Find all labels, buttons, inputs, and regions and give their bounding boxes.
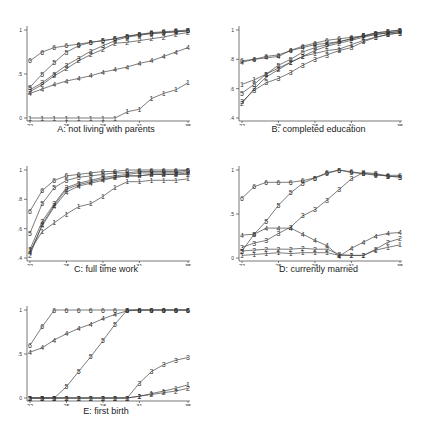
data-marker: 6 bbox=[65, 307, 69, 314]
data-marker: 6 bbox=[65, 172, 69, 179]
data-marker: 4 bbox=[264, 225, 268, 232]
data-marker: 5 bbox=[65, 383, 69, 390]
data-marker: 2 bbox=[301, 245, 305, 252]
data-marker: 2 bbox=[386, 239, 390, 246]
data-marker: 6 bbox=[89, 170, 93, 177]
data-marker: 6 bbox=[362, 32, 366, 39]
data-marker: 2 bbox=[362, 252, 366, 259]
data-marker: 6 bbox=[101, 307, 105, 314]
data-marker: 5 bbox=[77, 368, 81, 375]
data-marker: 2 bbox=[186, 385, 190, 392]
data-marker: 5 bbox=[28, 84, 32, 91]
data-marker: 2 bbox=[349, 252, 353, 259]
data-marker: 6 bbox=[349, 168, 353, 175]
data-marker: 3 bbox=[113, 395, 117, 402]
data-marker: 2 bbox=[374, 246, 378, 253]
data-marker: 1 bbox=[186, 79, 190, 86]
data-marker: 3 bbox=[174, 357, 178, 364]
data-marker: 6 bbox=[89, 307, 93, 314]
data-marker: 3 bbox=[301, 212, 305, 219]
data-marker: 1 bbox=[52, 219, 56, 226]
data-marker: 4 bbox=[77, 325, 81, 332]
data-marker: 1 bbox=[101, 115, 105, 122]
data-marker: 4 bbox=[337, 253, 341, 260]
data-marker: 1 bbox=[65, 115, 69, 122]
data-marker: 6 bbox=[386, 28, 390, 35]
data-marker: 2 bbox=[289, 246, 293, 253]
data-marker: 6 bbox=[264, 53, 268, 60]
data-marker: 5 bbox=[252, 231, 256, 238]
data-marker: 3 bbox=[277, 75, 281, 82]
series-3: 33333333333333 bbox=[240, 30, 402, 106]
data-marker: 5 bbox=[240, 248, 244, 255]
data-marker: 6 bbox=[101, 168, 105, 175]
data-marker: 6 bbox=[301, 43, 305, 50]
data-marker: 3 bbox=[162, 361, 166, 368]
data-marker: 6 bbox=[277, 179, 281, 186]
data-marker: 3 bbox=[150, 368, 154, 375]
data-marker: 6 bbox=[89, 39, 93, 46]
data-marker: 6 bbox=[162, 28, 166, 35]
data-marker: 1 bbox=[150, 95, 154, 102]
data-marker: 4 bbox=[101, 69, 105, 76]
data-marker: 6 bbox=[289, 47, 293, 54]
data-marker: 5 bbox=[264, 71, 268, 78]
series-4: 44444444444444 bbox=[240, 28, 402, 66]
data-marker: 3 bbox=[186, 354, 190, 361]
data-marker: 6 bbox=[52, 307, 56, 314]
data-marker: 6 bbox=[362, 170, 366, 177]
data-marker: 4 bbox=[162, 53, 166, 60]
data-marker: 6 bbox=[186, 167, 190, 174]
data-marker: 5 bbox=[40, 200, 44, 207]
data-marker: 5 bbox=[89, 353, 93, 360]
data-marker: 6 bbox=[65, 42, 69, 49]
data-marker: 3 bbox=[240, 98, 244, 105]
data-marker: 3 bbox=[77, 55, 81, 62]
y-tick-label: 0 bbox=[231, 255, 234, 261]
data-marker: 3 bbox=[349, 44, 353, 51]
data-marker: 4 bbox=[89, 72, 93, 79]
y-tick-label: .8 bbox=[230, 56, 234, 62]
data-marker: 4 bbox=[28, 349, 32, 356]
data-marker: 5 bbox=[52, 184, 56, 191]
data-marker: 4 bbox=[28, 90, 32, 97]
data-marker: 6 bbox=[137, 307, 141, 314]
data-marker: 6 bbox=[252, 56, 256, 63]
data-marker: 4 bbox=[52, 203, 56, 210]
data-marker: 4 bbox=[77, 183, 81, 190]
y-tick-label: .6 bbox=[18, 226, 22, 232]
data-marker: 6 bbox=[77, 171, 81, 178]
y-tick-label: .4 bbox=[18, 255, 22, 261]
data-marker: 6 bbox=[240, 57, 244, 64]
data-marker: 5 bbox=[101, 337, 105, 344]
data-marker: 4 bbox=[65, 189, 69, 196]
data-marker: 6 bbox=[325, 169, 329, 176]
data-marker: 3 bbox=[313, 56, 317, 63]
data-marker: 4 bbox=[40, 222, 44, 229]
data-marker: 6 bbox=[337, 35, 341, 42]
data-marker: 4 bbox=[28, 249, 32, 256]
panel-b-completed-education: .4.6.812225283135age11111111111111222222… bbox=[212, 20, 425, 140]
data-marker: 1 bbox=[52, 115, 56, 122]
data-marker: 6 bbox=[40, 323, 44, 330]
data-marker: 1 bbox=[89, 200, 93, 207]
data-marker: 4 bbox=[240, 232, 244, 239]
data-marker: 4 bbox=[65, 330, 69, 337]
data-marker: 4 bbox=[349, 245, 353, 252]
y-tick-label: .5 bbox=[18, 351, 22, 357]
data-marker: 1 bbox=[137, 106, 141, 113]
data-marker: 4 bbox=[150, 57, 154, 64]
data-marker: 1 bbox=[77, 115, 81, 122]
data-marker: 6 bbox=[125, 307, 129, 314]
data-marker: 2 bbox=[150, 391, 154, 398]
y-tick-label: .4 bbox=[230, 115, 234, 121]
data-marker: 1 bbox=[240, 81, 244, 88]
y-tick-label: .5 bbox=[18, 71, 22, 77]
data-marker: 3 bbox=[264, 79, 268, 86]
data-marker: 4 bbox=[52, 81, 56, 88]
y-tick-label: 1 bbox=[19, 307, 22, 313]
data-marker: 5 bbox=[40, 395, 44, 402]
data-marker: 5 bbox=[52, 395, 56, 402]
data-marker: 5 bbox=[252, 81, 256, 88]
data-marker: 6 bbox=[337, 167, 341, 174]
